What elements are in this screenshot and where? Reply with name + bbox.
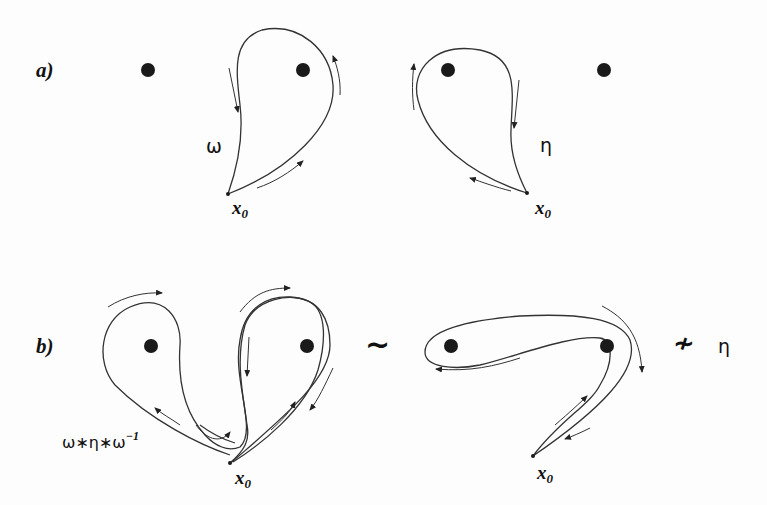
basepoint-symbol: x [537,462,547,483]
panel-b-label: b) [36,336,54,357]
loop-omega [228,29,333,194]
composite-path-label: ω∗η∗ω−1 [62,430,139,451]
basepoint-symbol: x [232,197,242,218]
basepoint-label-b-left: x0 [235,468,251,490]
basepoint-b-left [228,461,232,465]
puncture-b-right-2 [600,339,614,353]
basepoint-symbol: x [535,197,545,218]
rhs-eta-label: η [718,337,730,356]
panel-a-label: a) [36,60,54,81]
homotopic-symbol: ~ [365,330,390,360]
basepoint-b-right [531,454,535,458]
homotopy-diagram: a) ω η x0 x0 b) ω∗η∗ω−1 ~ ≁ η x0 x0 [0,0,767,505]
omega-label: ω [206,137,222,156]
puncture-b-right-1 [444,339,458,353]
composite-expression: ω∗η∗ω [62,433,126,452]
basepoint-subscript: 0 [547,471,554,486]
puncture-b-left-2 [300,339,314,353]
puncture-a-left-1 [141,63,155,77]
basepoint-subscript: 0 [242,206,249,221]
loop-composite-inner [230,297,323,463]
basepoint-label-a-right: x0 [535,198,551,220]
punctures [141,63,614,465]
puncture-a-right-2 [597,63,611,77]
loop-homotopic [425,315,632,456]
puncture-a-left-2 [296,63,310,77]
puncture-b-left-1 [144,339,158,353]
basepoint-subscript: 0 [245,476,252,491]
loop-eta [417,49,527,193]
basepoint-subscript: 0 [545,206,552,221]
basepoint-a-left [226,192,230,196]
basepoint-a-right [525,191,529,195]
eta-label: η [540,136,552,155]
puncture-a-right-1 [441,63,455,77]
basepoint-label-b-right: x0 [537,463,553,485]
inverse-exponent: −1 [126,429,139,443]
basepoint-symbol: x [235,467,245,488]
basepoint-label-a-left: x0 [232,198,248,220]
not-homotopic-symbol: ≁ [673,330,695,356]
